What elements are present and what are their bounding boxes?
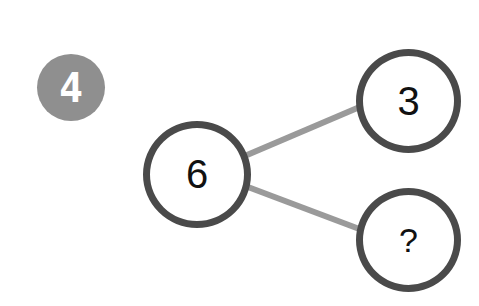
question-number-badge: 4 bbox=[37, 54, 105, 121]
part-circle-2: ? bbox=[356, 188, 461, 292]
connector-whole-to-part-2 bbox=[240, 184, 362, 230]
whole-value: 6 bbox=[186, 152, 208, 197]
part-1-value: 3 bbox=[397, 79, 419, 124]
whole-circle: 6 bbox=[143, 121, 251, 228]
connector-whole-to-part-1 bbox=[240, 106, 362, 158]
part-2-value: ? bbox=[399, 221, 418, 260]
question-number: 4 bbox=[59, 65, 83, 111]
part-circle-1: 3 bbox=[356, 49, 461, 153]
